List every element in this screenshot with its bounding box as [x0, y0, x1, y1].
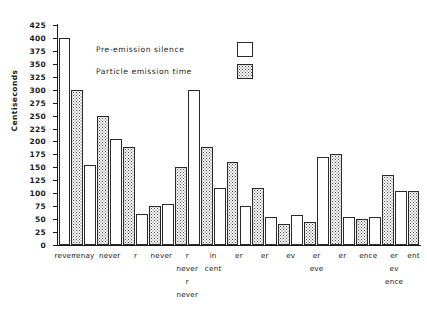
bar: [317, 157, 329, 245]
legend-item-label: Particle emission time: [96, 67, 231, 76]
x-axis-label: never: [151, 249, 173, 262]
y-axis-tick: 350: [53, 64, 58, 65]
y-axis-tick: 75: [53, 206, 58, 207]
x-axis-label-line: never: [176, 262, 198, 275]
bar: [136, 214, 148, 245]
bar: [227, 162, 239, 245]
bar: [123, 147, 135, 245]
x-axis-label: incent: [205, 249, 222, 275]
x-axis-label-line: r: [134, 249, 137, 262]
y-axis-tick: 425: [53, 25, 58, 26]
y-axis-tick-label: 275: [29, 98, 46, 107]
x-axis-label: never: [99, 249, 121, 262]
bar: [188, 90, 200, 245]
x-axis-label-line: never: [176, 288, 198, 301]
x-axis-label-line: eve: [310, 262, 324, 275]
bar: [149, 206, 161, 245]
y-axis-tick-label: 150: [29, 163, 46, 172]
y-axis-tick-label: 200: [29, 137, 46, 146]
x-axis-label: ev: [286, 249, 295, 262]
bar: [59, 38, 71, 245]
bar: [330, 154, 342, 245]
bar: [382, 175, 394, 245]
bar: [356, 219, 368, 245]
y-axis-tick: 375: [53, 51, 58, 52]
bar: [278, 224, 290, 245]
chart-legend: Pre-emission silenceParticle emission ti…: [96, 38, 253, 82]
y-axis-tick-label: 100: [29, 189, 46, 198]
y-axis-tick-label: 75: [35, 202, 46, 211]
bar: [71, 90, 83, 245]
x-axis-label: rneverrnever: [176, 249, 198, 301]
x-axis-label-line: ev: [286, 249, 295, 262]
y-axis-tick-label: 400: [29, 33, 46, 42]
x-axis-label: ereve: [310, 249, 324, 275]
y-axis-tick: 325: [53, 77, 58, 78]
x-axis-line: [57, 245, 421, 246]
bar: [214, 188, 226, 245]
x-axis-label-line: rever: [55, 249, 75, 262]
x-axis-label: erevence: [385, 249, 403, 288]
legend-swatch-silence: [237, 42, 253, 57]
x-axis-label-line: er: [385, 249, 403, 262]
bar: [252, 188, 264, 245]
x-axis-label-line: renay: [73, 249, 94, 262]
y-axis-tick-label: 50: [35, 215, 46, 224]
x-axis-label: ent: [407, 249, 419, 262]
x-axis-labels: reverrenayneverrneverrneverrneverincente…: [58, 249, 420, 311]
legend-item: Pre-emission silence: [96, 38, 253, 60]
y-axis-tick: 150: [53, 167, 58, 168]
bar: [201, 147, 213, 245]
y-axis-tick-label: 350: [29, 59, 46, 68]
y-axis-tick-label: 225: [29, 124, 46, 133]
y-axis-tick-label: 250: [29, 111, 46, 120]
bar: [162, 204, 174, 245]
x-axis-label-line: er: [235, 249, 243, 262]
x-axis-label-line: cent: [205, 262, 222, 275]
x-axis-label-line: in: [205, 249, 222, 262]
y-axis-tick: 175: [53, 154, 58, 155]
y-axis-tick: 275: [53, 103, 58, 104]
bar: [84, 165, 96, 245]
x-axis-label-line: er: [339, 249, 347, 262]
y-axis-title: Centiseconds: [10, 56, 19, 146]
bar: [265, 217, 277, 245]
x-axis-label-line: r: [176, 275, 198, 288]
y-axis-tick: 125: [53, 180, 58, 181]
x-axis-label: ence: [359, 249, 377, 262]
y-axis-tick-label: 425: [29, 21, 46, 30]
y-axis-tick-label: 125: [29, 176, 46, 185]
x-axis-label: er: [261, 249, 269, 262]
x-axis-label-line: ent: [407, 249, 419, 262]
y-axis-tick-label: 375: [29, 46, 46, 55]
x-axis-label: r: [134, 249, 137, 262]
y-axis-tick-label: 325: [29, 72, 46, 81]
x-axis-label-line: ence: [385, 275, 403, 288]
x-axis-label-line: r: [176, 249, 198, 262]
bar: [395, 191, 407, 245]
x-axis-label-line: ev: [385, 262, 403, 275]
legend-item-label: Pre-emission silence: [96, 45, 231, 54]
bar: [175, 167, 187, 245]
y-axis-tick: 225: [53, 129, 58, 130]
y-axis-tick: 250: [53, 116, 58, 117]
x-axis-label: rever: [55, 249, 75, 262]
x-axis-label-line: er: [310, 249, 324, 262]
x-axis-label: er: [339, 249, 347, 262]
x-axis-label: er: [235, 249, 243, 262]
bar: [240, 206, 252, 245]
y-axis-tick: 200: [53, 141, 58, 142]
bar: [291, 215, 303, 245]
legend-item: Particle emission time: [96, 60, 253, 82]
y-axis-tick-label: 175: [29, 150, 46, 159]
y-axis-tick: 300: [53, 90, 58, 91]
bar: [408, 191, 420, 245]
x-axis-label-line: ence: [359, 249, 377, 262]
y-axis-tick-label: 0: [40, 241, 46, 250]
y-axis-tick: 25: [53, 232, 58, 233]
y-axis-tick: 0: [53, 245, 58, 246]
bar: [110, 139, 122, 245]
bar: [304, 222, 316, 245]
y-axis-tick: 100: [53, 193, 58, 194]
y-axis-tick: 50: [53, 219, 58, 220]
